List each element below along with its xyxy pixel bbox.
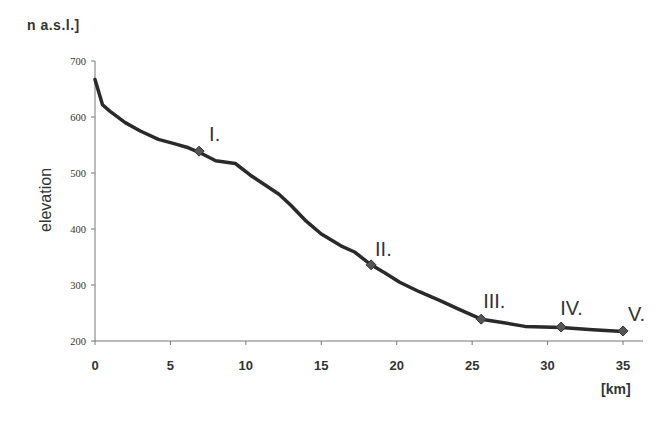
x-tick-label: 35 [616,358,630,373]
waypoint-label: III. [483,290,505,312]
x-tick-label: 5 [167,358,174,373]
waypoint-label: IV. [560,297,583,319]
x-tick-label: 20 [389,358,403,373]
waypoint-marker [618,326,628,336]
waypoint-marker [556,322,566,332]
waypoint-markers: I.II.III.IV.V. [194,123,645,336]
y-tick-label: 400 [70,224,86,235]
x-axis-ticks: 05101520253035 [91,341,630,373]
y-tick-label: 600 [70,112,86,123]
elevation-line [95,80,623,332]
x-tick-label: 0 [91,358,98,373]
elevation-chart: 200300400500600700 05101520253035 elevat… [0,0,666,426]
y-tick-label: 300 [70,280,86,291]
x-tick-label: 25 [465,358,479,373]
waypoint-label: II. [375,238,392,260]
y-tick-label: 700 [70,56,86,67]
waypoint-label: I. [209,123,220,145]
y-axis-ticks: 200300400500600700 [70,56,95,347]
x-tick-label: 30 [540,358,554,373]
x-tick-label: 15 [314,358,328,373]
y-tick-label: 500 [70,168,86,179]
x-tick-label: 10 [239,358,253,373]
y-tick-label: 200 [70,336,86,347]
waypoint-marker [476,314,486,324]
waypoint-label: V. [628,303,645,325]
y-axis-label: elevation [37,168,54,232]
